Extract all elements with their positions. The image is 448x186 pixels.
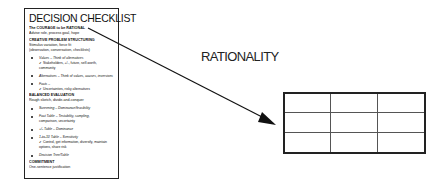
grid-cell [285,94,331,113]
grid-cell [378,113,424,132]
empty-table-grid [283,92,426,154]
grid-cell [331,113,377,132]
rationality-label: RATIONALITY [201,49,279,64]
grid-cell [331,133,377,152]
grid-cell [331,94,377,113]
grid-cell [285,113,331,132]
grid-cell [378,94,424,113]
arrowhead-icon [258,112,276,125]
grid-cell [285,133,331,152]
grid-cell [378,133,424,152]
